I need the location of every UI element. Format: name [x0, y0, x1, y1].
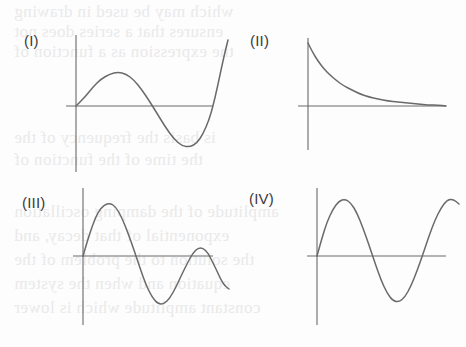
figure-page: which may be used in drawingensures that… [0, 0, 466, 347]
undamped-oscillation-plot [0, 0, 466, 347]
undamped-oscillation-curve [317, 199, 459, 301]
